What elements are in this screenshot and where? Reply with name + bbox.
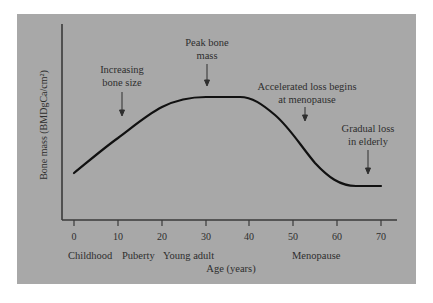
tick-label: 30 bbox=[201, 231, 211, 242]
x-tick-labels: 0 10 20 30 40 50 60 70 bbox=[72, 231, 387, 242]
phase-childhood: Childhood bbox=[68, 250, 113, 261]
annotation-gradual: in elderly bbox=[348, 136, 389, 147]
y-axis-label: Bone mass (BMDgCa/cm²) bbox=[38, 70, 50, 180]
x-ticks bbox=[74, 220, 381, 226]
annotation-peak: Peak bone bbox=[185, 37, 229, 48]
annotation-increasing: Increasing bbox=[100, 64, 144, 75]
chart-svg: 0 10 20 30 40 50 60 70 Childhood Puberty… bbox=[0, 0, 433, 303]
annotation-gradual: Gradual loss bbox=[342, 123, 395, 134]
x-axis-label: Age (years) bbox=[206, 263, 256, 275]
annotation-accelerated: at menopause bbox=[278, 94, 336, 105]
arrow-down-icon bbox=[366, 168, 371, 174]
annotation-increasing: bone size bbox=[102, 77, 142, 88]
tick-label: 0 bbox=[72, 231, 77, 242]
tick-label: 10 bbox=[113, 231, 123, 242]
tick-label: 20 bbox=[157, 231, 167, 242]
tick-label: 60 bbox=[332, 231, 342, 242]
tick-label: 40 bbox=[244, 231, 254, 242]
arrow-down-icon bbox=[120, 110, 125, 116]
arrow-down-icon bbox=[205, 80, 210, 86]
phase-menopause: Menopause bbox=[292, 250, 341, 261]
phase-young-adult: Young adult bbox=[163, 250, 214, 261]
arrow-down-icon bbox=[303, 115, 308, 121]
tick-label: 70 bbox=[376, 231, 386, 242]
annotations: Increasing bone size Peak bone mass Acce… bbox=[100, 37, 394, 147]
tick-label: 50 bbox=[288, 231, 298, 242]
annotation-accelerated: Accelerated loss begins bbox=[257, 81, 356, 92]
annotation-peak: mass bbox=[197, 50, 218, 61]
phase-puberty: Puberty bbox=[122, 250, 155, 261]
phase-labels: Childhood Puberty Young adult Menopause bbox=[68, 250, 341, 261]
